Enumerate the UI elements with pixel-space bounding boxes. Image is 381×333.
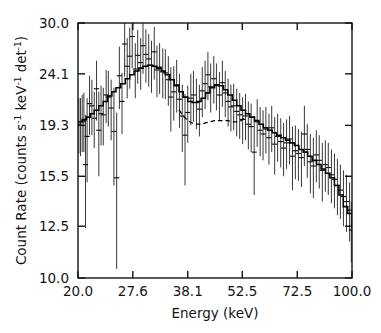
y-axis-title-text: Count Rate (counts s-1 keV-1 det-1) (13, 36, 29, 265)
y-tick-label: 10.0 (39, 270, 69, 286)
y-tick-label: 12.5 (39, 218, 69, 234)
count-rate-spectrum-chart: 20.027.638.152.572.5100.0 10.012.515.519… (0, 0, 381, 333)
x-tick-label: 27.6 (118, 283, 148, 299)
x-axis-title: Energy (keV) (172, 305, 259, 321)
y-tick-label: 19.3 (39, 117, 69, 133)
x-tick-label: 100.0 (333, 283, 372, 299)
y-tick-label: 15.5 (39, 168, 69, 184)
figure-container: 20.027.638.152.572.5100.0 10.012.515.519… (0, 0, 381, 333)
x-tick-label: 72.5 (282, 283, 312, 299)
y-tick-label: 24.1 (39, 66, 69, 82)
y-tick-label: 30.0 (39, 15, 69, 31)
x-tick-label: 38.1 (173, 283, 203, 299)
y-axis-title: Count Rate (counts s-1 keV-1 det-1) (13, 36, 29, 265)
x-tick-label: 52.5 (227, 283, 257, 299)
